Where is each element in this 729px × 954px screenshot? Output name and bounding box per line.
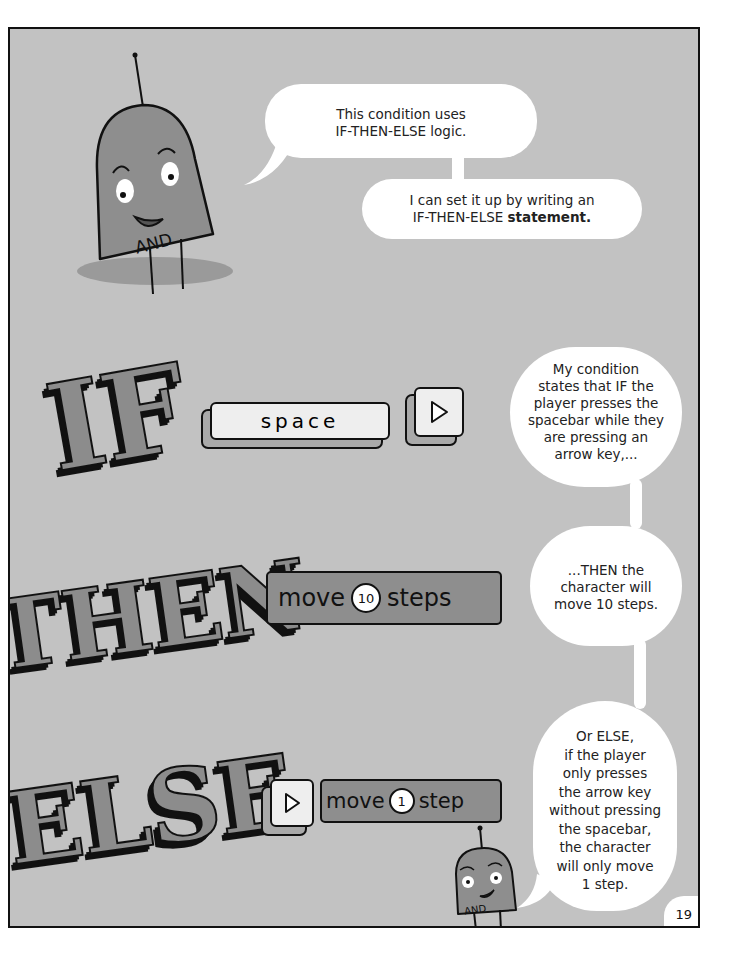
else-title: ELSE [8,732,300,889]
step-count-input[interactable]: 10 [351,583,381,613]
move-10-steps-block[interactable]: move 10 steps [266,571,502,625]
bubble-connector [634,639,646,709]
bubble-tail [238,139,298,199]
right-arrow-key-icon [429,400,449,424]
right-arrow-key-icon [283,792,301,814]
if-title: IF [37,336,197,499]
move-1-step-block[interactable]: move 1 step [320,779,502,823]
robot-label: AND [463,903,487,917]
right-arrow-key[interactable] [270,779,314,827]
step-count-input[interactable]: 1 [389,788,415,814]
right-arrow-key[interactable] [414,387,464,437]
bubble-tail [515,874,555,914]
speech-bubble-statement: I can set it up by writing an IF-THEN-EL… [362,179,642,239]
space-key[interactable]: space [210,402,390,440]
speech-bubble-intro: This condition uses IF-THEN-ELSE logic. [265,84,537,158]
comic-panel: AND This condition uses IF-THEN-ELSE log… [8,27,700,928]
speech-bubble-then: ...THEN thecharacter willmove 10 steps. [530,526,682,646]
page-number: 19 [664,896,698,926]
robot-character-icon: AND [55,49,245,294]
speech-bubble-if: My conditionstates that IF theplayer pre… [510,347,682,487]
bubble-connector [630,479,642,529]
bubble-connector [452,154,464,184]
